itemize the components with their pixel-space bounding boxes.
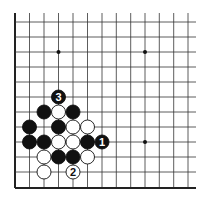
star-point <box>143 50 147 54</box>
black-stone <box>23 120 37 134</box>
white-stone <box>81 120 95 134</box>
black-stone: 1 <box>95 135 109 149</box>
white-stone <box>37 150 51 164</box>
white-stone <box>52 105 66 119</box>
star-point <box>143 140 147 144</box>
black-stone <box>66 150 80 164</box>
black-stone <box>37 105 51 119</box>
black-stone <box>52 120 66 134</box>
black-stone <box>81 135 95 149</box>
white-stone <box>81 150 95 164</box>
white-stone: 2 <box>66 165 80 179</box>
black-stone <box>52 150 66 164</box>
black-stone: 3 <box>52 90 66 104</box>
black-stone <box>23 135 37 149</box>
white-stone <box>52 135 66 149</box>
black-stone <box>66 105 80 119</box>
move-number-label: 3 <box>55 91 61 103</box>
white-stone <box>37 165 51 179</box>
black-stone <box>37 135 51 149</box>
stones: 312 <box>23 90 110 179</box>
white-stone <box>66 135 80 149</box>
white-stone <box>66 120 80 134</box>
go-board: 312 <box>0 0 206 204</box>
move-number-label: 2 <box>70 166 76 178</box>
move-number-label: 1 <box>99 136 105 148</box>
star-point <box>57 50 61 54</box>
